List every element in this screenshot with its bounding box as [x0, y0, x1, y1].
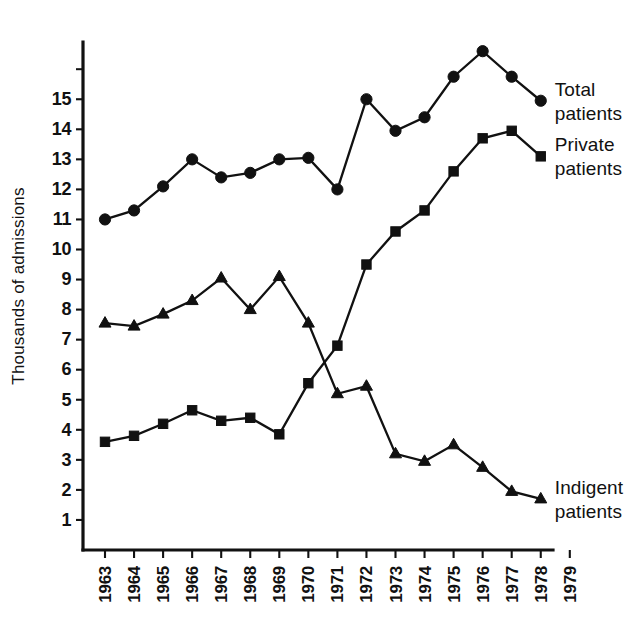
- legend-label-line: patients: [555, 158, 622, 179]
- data-point-square: [246, 413, 255, 422]
- data-point-circle: [158, 181, 169, 192]
- series-line: [105, 131, 541, 442]
- data-point-circle: [274, 154, 285, 165]
- data-point-circle: [332, 184, 343, 195]
- data-point-circle: [535, 95, 546, 106]
- y-tick-label: 15: [52, 89, 72, 109]
- data-point-square: [217, 416, 226, 425]
- y-tick-label: 8: [61, 299, 71, 319]
- series-indigent-patients: [99, 270, 547, 503]
- x-tick-label: 1969: [270, 566, 289, 603]
- chart-legend: TotalpatientsPrivatepatientsIndigentpati…: [555, 79, 624, 522]
- data-point-circle: [477, 46, 488, 57]
- chart-container: 151413121110987654321 196319641965196619…: [0, 0, 642, 617]
- data-point-triangle: [448, 438, 460, 449]
- data-point-square: [333, 341, 342, 350]
- y-tick-label: 11: [53, 209, 72, 229]
- y-tick-label: 3: [61, 450, 71, 470]
- x-tick-label: 1966: [183, 566, 202, 603]
- legend-entry-total-patients: Totalpatients: [555, 79, 622, 124]
- data-point-triangle: [360, 380, 372, 391]
- x-tick-label: 1976: [474, 566, 493, 603]
- legend-label-line: patients: [555, 501, 622, 522]
- y-tick-label: 2: [61, 480, 71, 500]
- data-point-square: [187, 406, 196, 415]
- legend-entry-private-patients: Privatepatients: [555, 134, 622, 179]
- series-line: [105, 51, 541, 219]
- data-point-circle: [506, 71, 517, 82]
- y-tick-label: 10: [52, 239, 72, 259]
- y-tick-label: 7: [61, 329, 71, 349]
- data-point-square: [275, 430, 284, 439]
- x-tick-label: 1972: [357, 566, 376, 603]
- data-point-square: [449, 167, 458, 176]
- y-tick-label: 1: [61, 510, 71, 530]
- y-axis-tick-labels: 151413121110987654321: [52, 89, 72, 530]
- data-point-circle: [448, 71, 459, 82]
- x-tick-label: 1968: [241, 566, 260, 603]
- x-tick-label: 1975: [445, 566, 464, 603]
- data-point-circle: [128, 205, 139, 216]
- data-point-square: [507, 126, 516, 135]
- y-axis-title-text: Thousands of admissions: [9, 187, 28, 384]
- legend-label-line: Indigent: [555, 477, 624, 498]
- legend-label-line: Total: [555, 79, 596, 100]
- legend-label-line: patients: [555, 103, 622, 124]
- x-tick-label: 1967: [212, 566, 231, 603]
- data-point-square: [420, 206, 429, 215]
- y-tick-label: 6: [61, 359, 71, 379]
- data-point-triangle: [99, 317, 111, 328]
- x-tick-label: 1964: [125, 565, 144, 602]
- data-point-square: [158, 419, 167, 428]
- data-point-square: [362, 260, 371, 269]
- y-tick-label: 12: [52, 179, 72, 199]
- data-point-circle: [216, 172, 227, 183]
- x-tick-label: 1971: [328, 566, 347, 603]
- data-point-square: [100, 437, 109, 446]
- data-point-circle: [245, 167, 256, 178]
- legend-entry-indigent-patients: Indigentpatients: [555, 477, 624, 522]
- x-axis-tick-labels: 1963196419651966196719681969197019711972…: [96, 565, 580, 602]
- data-point-triangle: [273, 270, 285, 281]
- data-point-circle: [187, 154, 198, 165]
- data-point-circle: [390, 125, 401, 136]
- data-point-triangle: [477, 461, 489, 472]
- data-point-triangle: [390, 447, 402, 458]
- data-point-circle: [303, 152, 314, 163]
- x-tick-label: 1974: [416, 565, 435, 602]
- x-tick-label: 1965: [154, 566, 173, 603]
- data-point-circle: [419, 112, 430, 123]
- y-axis-title: Thousands of admissions: [9, 187, 28, 384]
- line-chart: 151413121110987654321 196319641965196619…: [0, 0, 642, 617]
- y-tick-label: 9: [61, 269, 71, 289]
- data-point-triangle: [186, 294, 198, 305]
- series-line: [105, 277, 541, 499]
- chart-series: [99, 46, 547, 503]
- legend-label-line: Private: [555, 134, 615, 155]
- x-tick-label: 1978: [532, 566, 551, 603]
- data-point-circle: [99, 214, 110, 225]
- x-tick-label: 1977: [503, 566, 522, 603]
- x-tick-label: 1979: [561, 566, 580, 603]
- y-tick-label: 13: [52, 149, 72, 169]
- y-tick-label: 5: [61, 390, 71, 410]
- data-point-circle: [361, 94, 372, 105]
- data-point-square: [129, 431, 138, 440]
- y-tick-label: 14: [52, 119, 72, 139]
- y-tick-label: 4: [61, 420, 71, 440]
- x-tick-label: 1963: [96, 566, 115, 603]
- x-tick-label: 1970: [299, 566, 318, 603]
- data-point-square: [304, 379, 313, 388]
- data-point-triangle: [215, 272, 227, 283]
- data-point-square: [478, 134, 487, 143]
- x-tick-label: 1973: [387, 566, 406, 603]
- chart-axes: [83, 42, 553, 550]
- data-point-square: [536, 152, 545, 161]
- data-point-square: [391, 227, 400, 236]
